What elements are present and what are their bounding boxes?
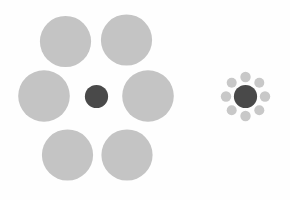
illusion-canvas [0,0,290,200]
ebbinghaus-illusion-figure: Ebbinghaus illusion Two identical dark c… [0,0,290,200]
